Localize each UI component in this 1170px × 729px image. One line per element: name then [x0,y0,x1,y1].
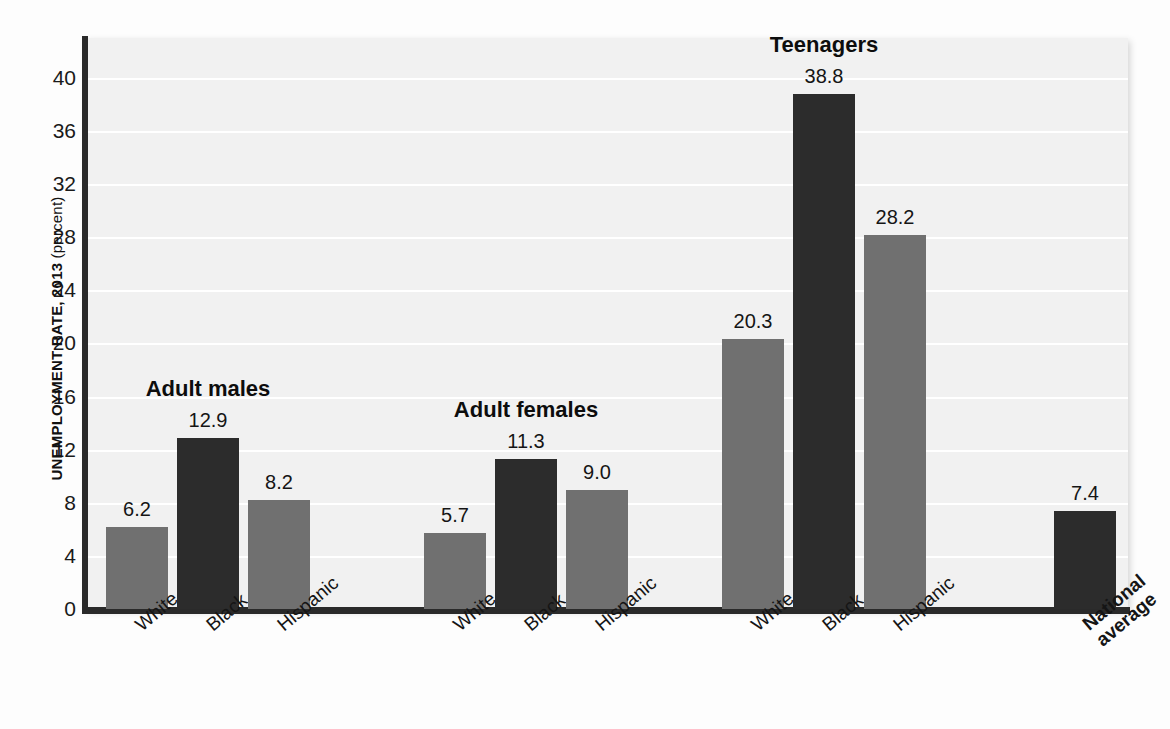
bar-value-label: 5.7 [441,504,469,527]
bar-adult-males-white[interactable]: 6.2White [106,527,168,609]
gridline [86,184,1128,186]
bar-teenagers-black[interactable]: 38.8Black [793,94,855,609]
scanned-page: household survey to measure unemployment… [0,0,1170,729]
bar-adult-males-black[interactable]: 12.9Black [177,438,239,609]
y-axis-title: UNEMPLOYMENT RATE, 2013 (percent) [48,139,65,539]
group-heading-adult-males: Adult males [146,376,271,402]
bar-value-label: 20.3 [734,310,773,333]
bar-fill [566,490,628,610]
y-axis-title-main: UNEMPLOYMENT RATE, 2013 [48,263,65,481]
bar-fill [177,438,239,609]
y-tick-label: 40 [32,66,76,90]
bar-value-label: 8.2 [265,471,293,494]
gridline [86,343,1128,345]
bar-value-label: 9.0 [583,461,611,484]
bar-value-label: 12.9 [189,409,228,432]
bar-national-average-national-average[interactable]: 7.4Nationalaverage [1054,511,1116,609]
gridline [86,290,1128,292]
bar-value-label: 7.4 [1071,482,1099,505]
bar-fill [495,459,557,609]
bar-adult-females-hispanic[interactable]: 9.0Hispanic [566,490,628,610]
y-tick-label: 4 [32,544,76,568]
y-axis-title-unit: (percent) [48,197,65,259]
y-tick-label: 0 [32,597,76,621]
bar-adult-females-black[interactable]: 11.3Black [495,459,557,609]
bar-adult-males-hispanic[interactable]: 8.2Hispanic [248,500,310,609]
gridline [86,237,1128,239]
bar-fill [248,500,310,609]
gridline [86,131,1128,133]
bar-value-label: 11.3 [507,430,544,453]
bar-fill [864,235,926,609]
y-axis-line [82,36,88,613]
bar-fill [722,339,784,609]
bar-value-label: 28.2 [876,206,915,229]
group-heading-teenagers: Teenagers [770,32,878,58]
bar-teenagers-white[interactable]: 20.3White [722,339,784,609]
bar-adult-females-white[interactable]: 5.7White [424,533,486,609]
bar-teenagers-hispanic[interactable]: 28.2Hispanic [864,235,926,609]
bar-value-label: 38.8 [805,65,844,88]
gridline [86,78,1128,80]
bar-chart: 0481216202428323640 UNEMPLOYMENT RATE, 2… [0,0,1170,729]
bar-fill [793,94,855,609]
bar-value-label: 6.2 [123,498,151,521]
group-heading-adult-females: Adult females [454,397,598,423]
gridline [86,450,1128,452]
